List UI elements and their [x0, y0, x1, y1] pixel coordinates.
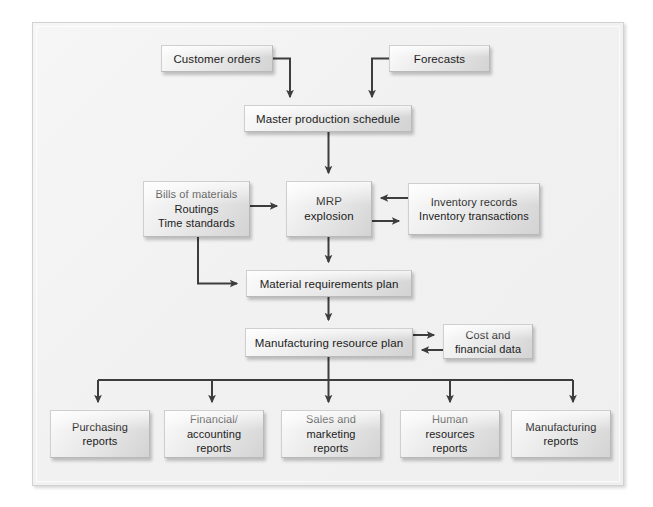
node-label: Inventory records Inventory transactions — [414, 195, 534, 224]
node-manufacturing-resource-plan[interactable]: Manufacturing resource plan — [245, 328, 413, 357]
node-forecasts[interactable]: Forecasts — [389, 45, 490, 72]
node-label: Customer orders — [168, 52, 265, 66]
node-purchasing-reports[interactable]: Purchasing reports — [50, 410, 150, 458]
node-human-resources-reports[interactable]: Human resources reports — [400, 410, 500, 458]
node-label: Manufacturing resource plan — [250, 336, 408, 350]
node-label: Material requirements plan — [255, 277, 404, 291]
node-financial-accounting-reports[interactable]: Financial/ accounting reports — [164, 410, 264, 458]
node-label: Sales and marketing reports — [301, 412, 361, 456]
node-label: Bills of materials Routings Time standar… — [151, 187, 243, 231]
node-material-requirements-plan[interactable]: Material requirements plan — [246, 270, 412, 297]
node-sales-and-marketing-reports[interactable]: Sales and marketing reports — [281, 410, 381, 458]
node-label: Purchasing reports — [67, 420, 133, 449]
node-label: Forecasts — [409, 52, 470, 66]
node-bills-of-materials[interactable]: Bills of materials Routings Time standar… — [143, 181, 250, 237]
node-label: Cost and financial data — [450, 328, 526, 356]
node-cost-and-financial-data[interactable]: Cost and financial data — [443, 324, 533, 359]
node-label: Human resources reports — [420, 412, 479, 456]
node-customer-orders[interactable]: Customer orders — [161, 45, 273, 72]
node-label: Manufacturing reports — [520, 420, 601, 449]
node-master-production-schedule[interactable]: Master production schedule — [244, 105, 412, 132]
node-mrp-explosion[interactable]: MRP explosion — [286, 181, 372, 237]
node-manufacturing-reports[interactable]: Manufacturing reports — [511, 410, 611, 458]
node-label: Master production schedule — [251, 112, 405, 126]
node-label: MRP explosion — [299, 194, 359, 224]
node-label: Financial/ accounting reports — [182, 412, 246, 456]
diagram-canvas: Customer orders Forecasts Master product… — [0, 0, 653, 507]
node-inventory-records[interactable]: Inventory records Inventory transactions — [408, 183, 540, 235]
